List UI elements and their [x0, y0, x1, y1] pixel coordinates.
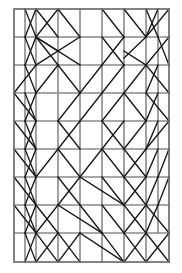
- diagonal-line-14: [36, 37, 58, 51]
- diagonal-line-39: [146, 93, 158, 121]
- diagonal-line-20: [158, 37, 169, 65]
- diagonal-line-30: [146, 65, 158, 93]
- diagonal-line-70: [146, 177, 158, 205]
- diagonal-line-55: [80, 149, 102, 177]
- diagonal-line-59: [146, 149, 158, 177]
- diagonal-line-34: [58, 93, 80, 121]
- diagonal-line-26: [80, 65, 102, 93]
- diagonal-line-5: [102, 9, 124, 37]
- diagonal-line-79: [102, 205, 124, 233]
- diagonal-line-28: [124, 65, 146, 93]
- diagonal-line-35: [80, 93, 102, 121]
- diagonal-line-56: [102, 149, 124, 177]
- diagonal-line-91: [102, 233, 124, 262]
- diagonal-line-18: [124, 37, 146, 58]
- diagonal-line-71: [158, 177, 169, 205]
- diagonal-line-53: [36, 149, 58, 177]
- diagonal-line-60: [158, 149, 169, 177]
- grid-lines-group: [14, 9, 169, 262]
- diagonal-line-48: [146, 121, 158, 149]
- diagonal-line-25: [58, 65, 80, 93]
- diagonal-line-24: [36, 65, 58, 93]
- diagonal-line-12: [36, 37, 58, 65]
- diagonal-line-83: [146, 205, 158, 233]
- diagonal-line-6: [124, 9, 146, 37]
- diagonal-line-78: [80, 205, 102, 233]
- diagonal-line-67: [102, 177, 124, 205]
- diagonal-line-37: [124, 93, 146, 121]
- diagonal-line-19: [124, 51, 146, 65]
- grid-figure: [0, 0, 182, 273]
- diagonal-line-4: [58, 9, 80, 37]
- diagonal-line-23: [25, 65, 36, 93]
- diagonal-line-54: [58, 149, 80, 177]
- figure-root: [0, 0, 182, 273]
- diagonal-line-27: [102, 65, 124, 93]
- diagonal-line-47: [124, 121, 146, 149]
- diagonal-line-36: [102, 93, 124, 121]
